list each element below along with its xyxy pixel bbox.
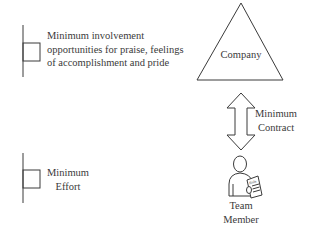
- team-member-icon: [229, 156, 262, 198]
- flag-text-top: Minimum involvement opportunities for pr…: [47, 29, 183, 70]
- company-triangle: [197, 3, 283, 80]
- flag-text-bottom: Minimum Effort: [46, 166, 90, 193]
- flag-text-line: Minimum involvement: [47, 29, 183, 43]
- flag-text-line: Minimum: [46, 166, 90, 180]
- team-member-label-line: Team: [216, 199, 266, 213]
- connector-label-line: Minimum: [253, 107, 299, 121]
- connector-label-line: Contract: [253, 121, 299, 135]
- flag-icon-top: [23, 25, 40, 77]
- team-member-label-line: Member: [216, 213, 266, 227]
- flag-text-line: opportunities for praise, feelings: [47, 43, 183, 57]
- company-label: Company: [211, 48, 271, 62]
- flag-text-line: Effort: [46, 180, 90, 194]
- flag-icon-bottom: [23, 153, 40, 203]
- connector-label: Minimum Contract: [253, 107, 299, 134]
- flag-text-line: of accomplishment and pride: [47, 56, 183, 70]
- team-member-label: Team Member: [216, 199, 266, 226]
- double-arrow-icon: [227, 93, 255, 150]
